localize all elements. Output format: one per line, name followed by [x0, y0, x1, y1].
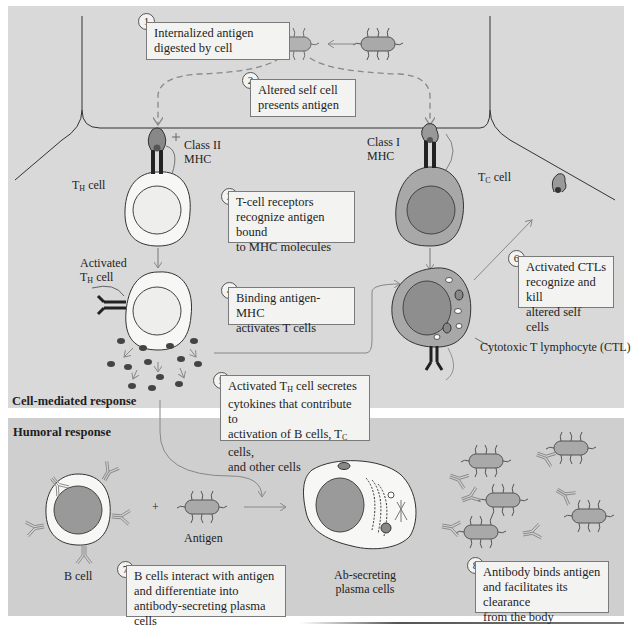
plus-sign: +: [152, 500, 159, 514]
callout-text: activates T cells: [236, 321, 348, 336]
callout-text: Antibody binds antigen: [483, 565, 602, 580]
callout-text: and facilitates its clearance: [483, 580, 602, 610]
mhc-on-target-icon: [552, 174, 566, 193]
ctl-cell: [392, 268, 491, 380]
callout-text: activation of B cells, TC cells,: [228, 427, 363, 460]
antigen-label: Antigen: [184, 531, 223, 545]
callout-text: to MHC molecules: [236, 240, 348, 255]
callout-text: B cells interact with antigen: [134, 569, 279, 584]
step-7-callout: B cells interact with antigen and differ…: [126, 565, 286, 617]
callout-text: cytokines that contribute to: [228, 397, 363, 427]
activated-th-cell-label: Activated TH cell: [80, 256, 127, 288]
b-cell-label: B cell: [64, 569, 92, 583]
callout-text: altered self cells: [526, 305, 607, 335]
callout-text: T-cell receptors: [236, 195, 348, 210]
callout-text: and other cells: [228, 460, 363, 475]
class-i-mhc-label: Class IMHC: [367, 135, 400, 163]
callout-text: and differentiate into: [134, 584, 279, 599]
callout-text: Activated TH cell secretes: [228, 379, 363, 397]
step-3-callout: T-cell receptors recognize antigen bound…: [228, 191, 355, 243]
th-cell: [125, 128, 190, 246]
plasma-cells-label: Ab-secretingplasma cells: [334, 568, 396, 596]
th-cell-label: TH cell: [72, 178, 105, 196]
b-cell: [25, 460, 131, 564]
callout-text: digested by cell: [154, 41, 283, 56]
callout-text: presents antigen: [258, 98, 349, 113]
step-6-callout: Activated CTLs recognize and kill altere…: [518, 256, 614, 308]
step-2-callout: Altered self cell presents antigen: [250, 79, 356, 117]
tc-cell-label: TC cell: [478, 170, 511, 188]
ctl-label: Cytotoxic T lymphocyte (CTL): [480, 340, 631, 354]
callout-text: Binding antigen-MHC: [236, 291, 348, 321]
callout-text: Activated CTLs: [526, 260, 607, 275]
antigen-bacterium-icon: [353, 28, 403, 60]
step-5-callout: Activated TH cell secretes cytokines tha…: [220, 375, 370, 441]
step-4-callout: Binding antigen-MHC activates T cells: [228, 287, 355, 325]
class-ii-mhc-label: Class IIMHC: [184, 138, 221, 166]
callout-text: antibody-secreting plasma cells: [134, 599, 279, 629]
antigen-bacterium-icon: [177, 491, 227, 523]
humoral-title: Humoral response: [13, 425, 111, 440]
tc-cell: [396, 124, 464, 246]
callout-text: Altered self cell: [258, 83, 349, 98]
callout-text: from the body: [483, 610, 602, 625]
callout-text: Internalized antigen: [154, 26, 283, 41]
callout-text: recognize antigen bound: [236, 210, 348, 240]
step-1-callout: Internalized antigen digested by cell: [146, 22, 290, 60]
antigen-antibody-field: [441, 432, 614, 548]
callout-text: recognize and kill: [526, 275, 607, 305]
step-8-callout: Antibody binds antigen and facilitates i…: [475, 561, 609, 613]
cell-mediated-title: Cell-mediated response: [12, 394, 136, 409]
